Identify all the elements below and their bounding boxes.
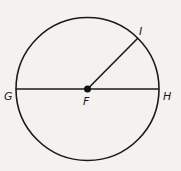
label-g: G [4,90,13,103]
radius-fi [88,38,139,89]
label-h: H [163,90,171,103]
label-f: F [83,95,90,108]
circle-diagram: G F H I [0,0,181,171]
label-i: I [139,25,142,38]
center-point-f [84,86,91,93]
